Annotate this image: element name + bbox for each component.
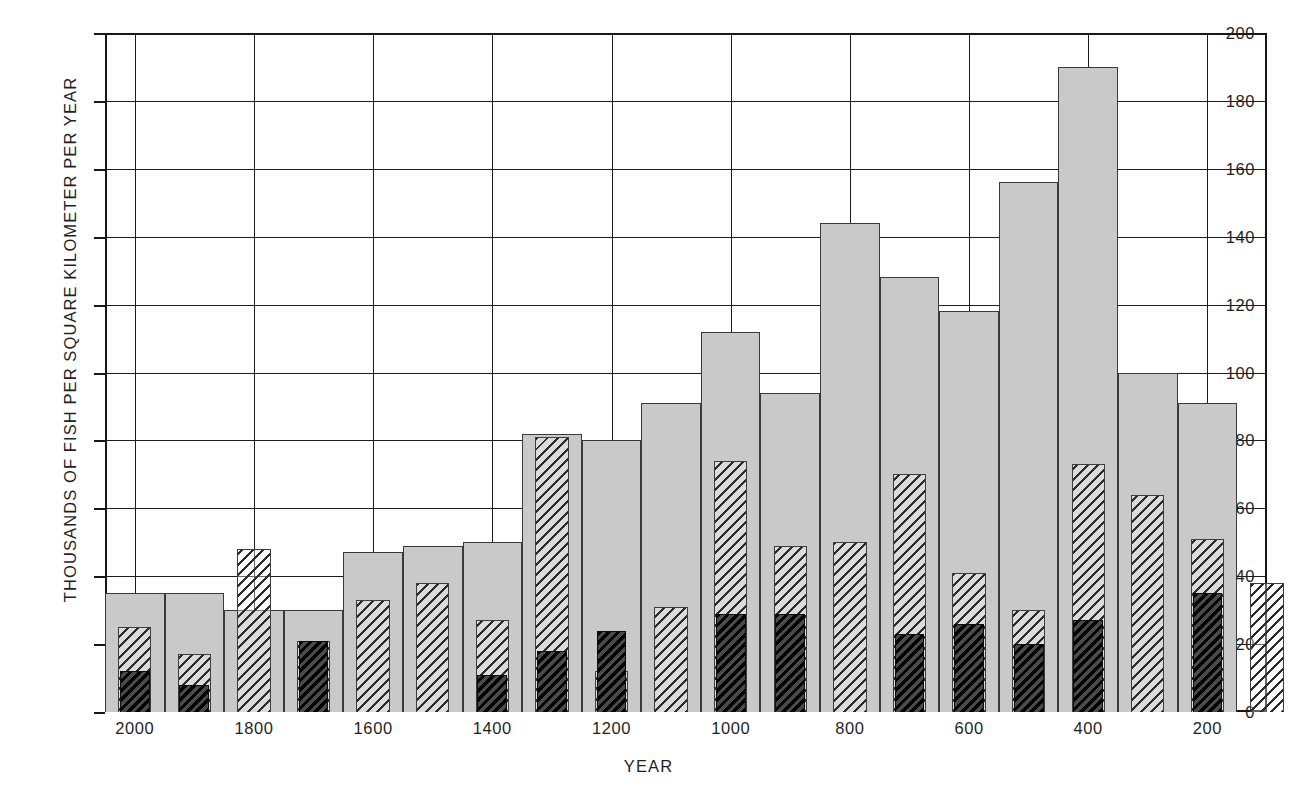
y-tick-mark — [94, 169, 105, 171]
bar-mid-hatched-1100 — [654, 607, 687, 712]
bar-front-dark-200 — [1193, 593, 1223, 712]
y-tick-label: 60 — [1235, 499, 1255, 518]
x-tick-label: 1800 — [234, 719, 273, 738]
x-tick-label: 1000 — [711, 719, 750, 738]
y-tick-label: 180 — [1226, 91, 1255, 110]
x-tick-label: 1200 — [592, 719, 631, 738]
y-tick-mark — [94, 33, 105, 35]
bar-mid-hatched-1800 — [237, 549, 270, 712]
bar-front-dark-1700 — [299, 641, 329, 712]
bar-front-dark-1900 — [179, 685, 209, 712]
y-tick-mark — [94, 373, 105, 375]
y-tick-mark — [94, 440, 105, 442]
y-tick-label: 80 — [1235, 431, 1255, 450]
bar-front-dark-1200 — [597, 631, 627, 712]
bar-mid-hatched-100 — [1250, 583, 1283, 712]
y-axis-title: THOUSANDS OF FISH PER SQUARE KILOMETER P… — [61, 10, 80, 670]
y-tick-label: 100 — [1226, 363, 1255, 382]
bar-front-dark-600 — [954, 624, 984, 712]
bar-front-dark-700 — [895, 634, 925, 712]
y-tick-label: 160 — [1226, 159, 1255, 178]
bar-front-dark-2000 — [120, 671, 150, 712]
y-tick-label: 120 — [1226, 295, 1255, 314]
x-tick-label: 200 — [1193, 719, 1222, 738]
y-tick-mark — [94, 305, 105, 307]
bar-mid-hatched-300 — [1131, 495, 1164, 712]
bar-front-dark-1000 — [716, 614, 746, 712]
bar-mid-hatched-800 — [833, 542, 866, 712]
bar-mid-hatched-1600 — [356, 600, 389, 712]
y-tick-mark — [94, 712, 105, 714]
plot-area: 020406080100120140160180200 200018001600… — [105, 33, 1267, 712]
bar-front-dark-1400 — [477, 675, 507, 712]
bar-front-dark-500 — [1014, 644, 1044, 712]
y-tick-mark — [94, 237, 105, 239]
bar-front-dark-1300 — [537, 651, 567, 712]
x-tick-label: 2000 — [115, 719, 154, 738]
x-tick-label: 1400 — [473, 719, 512, 738]
x-tick-label: 400 — [1074, 719, 1103, 738]
bar-front-dark-400 — [1073, 620, 1103, 712]
x-tick-label: 600 — [954, 719, 983, 738]
x-tick-label: 800 — [835, 719, 864, 738]
y-tick-mark — [94, 508, 105, 510]
x-axis-title: YEAR — [0, 757, 1297, 776]
y-tick-mark — [94, 644, 105, 646]
bar-mid-hatched-1500 — [416, 583, 449, 712]
y-tick-mark — [94, 101, 105, 103]
bar-front-dark-900 — [775, 614, 805, 712]
y-tick-label: 200 — [1226, 24, 1255, 43]
chart-figure: THOUSANDS OF FISH PER SQUARE KILOMETER P… — [0, 0, 1297, 807]
y-tick-label: 140 — [1226, 227, 1255, 246]
x-tick-label: 1600 — [354, 719, 393, 738]
y-tick-mark — [94, 576, 105, 578]
